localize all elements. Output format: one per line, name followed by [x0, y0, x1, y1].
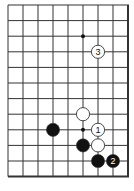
- go-board-diagram: 312: [0, 0, 134, 191]
- white-stone: [91, 139, 104, 152]
- black-stone: [91, 154, 104, 167]
- stone-move-number: 1: [95, 125, 100, 135]
- stone-move-number: 3: [95, 47, 100, 57]
- white-stone: [76, 108, 89, 121]
- white-stone: 3: [91, 45, 104, 58]
- black-stone: 2: [106, 154, 119, 167]
- black-stone: [46, 123, 59, 136]
- star-point-icon: [81, 34, 85, 38]
- white-stone: 1: [91, 123, 104, 136]
- black-stone: [76, 139, 89, 152]
- star-point-icon: [81, 128, 85, 132]
- grid-lines: [8, 5, 129, 177]
- stone-move-number: 2: [110, 156, 115, 166]
